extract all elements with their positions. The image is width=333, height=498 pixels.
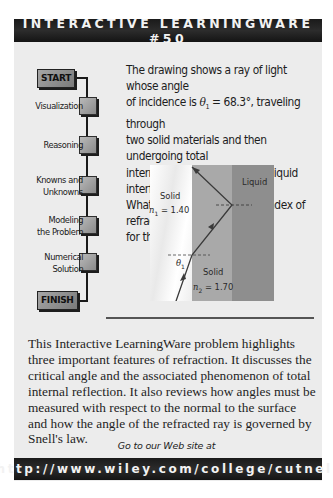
step-label-visualization: Visualization [35, 100, 83, 112]
section-divider [106, 317, 314, 319]
step-label-numerical-solution: NumericalSolution [44, 251, 83, 274]
theta-1-label: θ1 [176, 258, 185, 270]
description-text: This Interactive LearningWare problem hi… [28, 336, 318, 447]
solid-2-index: n2 = 1.70 [193, 282, 233, 294]
url-banner: http://www.wiley.com/college/cutnell [14, 458, 322, 480]
header-title: INTERACTIVE LEARNINGWARE #50 [14, 16, 322, 46]
step-label-knowns-unknowns: Knowns andUnknowns [36, 174, 83, 197]
goto-website-text: Go to our Web site at [0, 440, 333, 451]
liquid-label: Liquid [242, 177, 267, 187]
step-label-modeling: Modelingthe Problem [37, 214, 83, 237]
step-label-reasoning: Reasoning [43, 139, 83, 151]
header-banner: INTERACTIVE LEARNINGWARE #50 [14, 19, 322, 42]
refraction-diagram: Solid n1 = 1.40 Liquid θ1 Solid n2 = 1.7… [150, 165, 274, 301]
flowchart: START FINISH Visualization Reasoning Kno… [14, 60, 114, 320]
website-url-link[interactable]: http://www.wiley.com/college/cutnell [0, 462, 333, 476]
solid-2-label: Solid [203, 267, 223, 277]
solid-1-index: n1 = 1.40 [149, 205, 189, 217]
solid-1-label: Solid [160, 191, 180, 201]
